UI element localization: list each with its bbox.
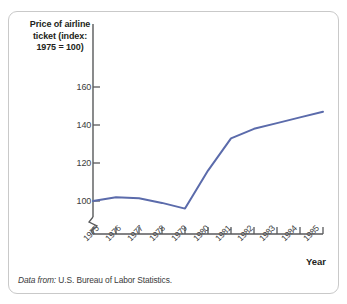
source-note-prefix: Data from: [18, 275, 56, 285]
x-axis-title: Year [306, 256, 326, 267]
source-note: Data from: U.S. Bureau of Labor Statisti… [18, 275, 172, 285]
data-series-line [93, 112, 323, 209]
source-note-text: U.S. Bureau of Labor Statistics. [58, 275, 172, 285]
figure-card: Price of airline ticket (index: 1975 = 1… [8, 11, 339, 294]
chart-plot-area: Price of airline ticket (index: 1975 = 1… [9, 12, 340, 295]
chart-svg [9, 12, 340, 295]
